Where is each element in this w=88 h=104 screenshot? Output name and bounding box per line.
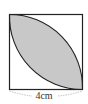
shaded-lens-region (9, 14, 82, 89)
square-lens-diagram (0, 0, 88, 104)
side-length-label: 4cm (0, 90, 88, 102)
